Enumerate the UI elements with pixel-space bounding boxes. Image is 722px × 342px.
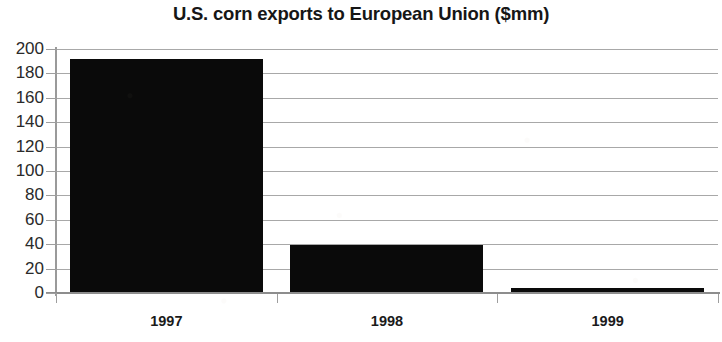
y-tick-label: 40 (0, 235, 44, 252)
y-tick-mark (46, 269, 57, 270)
chart-title: U.S. corn exports to European Union ($mm… (0, 3, 722, 25)
x-category-label-1997: 1997 (56, 313, 277, 329)
x-tick-mark (277, 294, 278, 303)
plot-area (56, 49, 718, 293)
y-tick-label: 80 (0, 186, 44, 203)
y-tick-mark (46, 244, 57, 245)
y-tick-label: 20 (0, 260, 44, 277)
y-tick-mark (46, 122, 57, 123)
y-tick-label: 200 (0, 40, 44, 57)
x-tick-mark (56, 294, 57, 303)
y-tick-label: 140 (0, 113, 44, 130)
x-tick-mark (718, 294, 719, 303)
bar-1998 (290, 245, 483, 293)
y-tick-label: 160 (0, 89, 44, 106)
x-category-label-1999: 1999 (497, 313, 718, 329)
gridline (56, 49, 718, 50)
y-tick-mark (46, 98, 57, 99)
bar-1997 (70, 59, 263, 293)
y-tick-mark (46, 195, 57, 196)
y-tick-mark (46, 147, 57, 148)
y-tick-mark (46, 49, 57, 50)
bar-chart-figure: U.S. corn exports to European Union ($mm… (0, 0, 722, 342)
x-tick-mark (497, 294, 498, 303)
y-tick-label: 100 (0, 162, 44, 179)
x-category-label-1998: 1998 (277, 313, 498, 329)
y-tick-label: 120 (0, 138, 44, 155)
y-tick-label: 0 (0, 284, 44, 301)
y-tick-label: 60 (0, 211, 44, 228)
y-tick-mark (46, 220, 57, 221)
x-axis-line (46, 292, 720, 294)
y-tick-label: 180 (0, 64, 44, 81)
y-tick-mark (46, 73, 57, 74)
y-tick-mark (46, 171, 57, 172)
